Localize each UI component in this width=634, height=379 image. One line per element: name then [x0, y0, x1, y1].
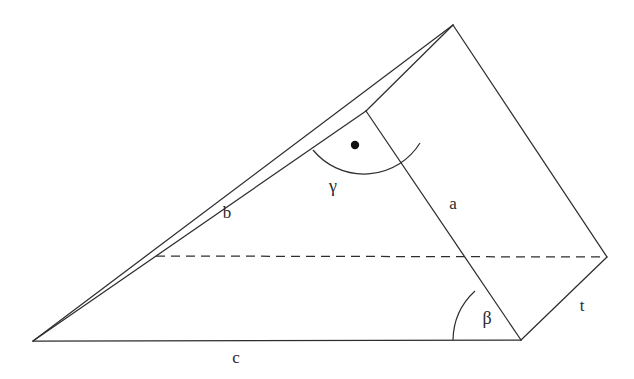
- edge-b-upper: [33, 25, 453, 341]
- edge-apex-to-back: [453, 25, 607, 257]
- edge-b-lower: [33, 111, 366, 341]
- edge-a: [366, 111, 521, 340]
- edge-t: [521, 257, 607, 340]
- label-b: b: [223, 204, 232, 221]
- label-a: a: [449, 195, 457, 212]
- label-c: c: [232, 349, 240, 366]
- edge-b-lower-extend: [366, 25, 453, 111]
- angle-arc-beta: [453, 291, 475, 340]
- edge-c-base: [33, 340, 521, 341]
- geometry-figure: a b c t γ β: [0, 0, 634, 379]
- interior-dot: [351, 141, 359, 149]
- figure-canvas: [0, 0, 634, 379]
- label-beta: β: [482, 309, 491, 327]
- angle-arc-gamma: [313, 143, 420, 174]
- label-t: t: [580, 297, 585, 314]
- label-gamma: γ: [329, 177, 337, 195]
- edge-hidden-dashed: [156, 256, 607, 257]
